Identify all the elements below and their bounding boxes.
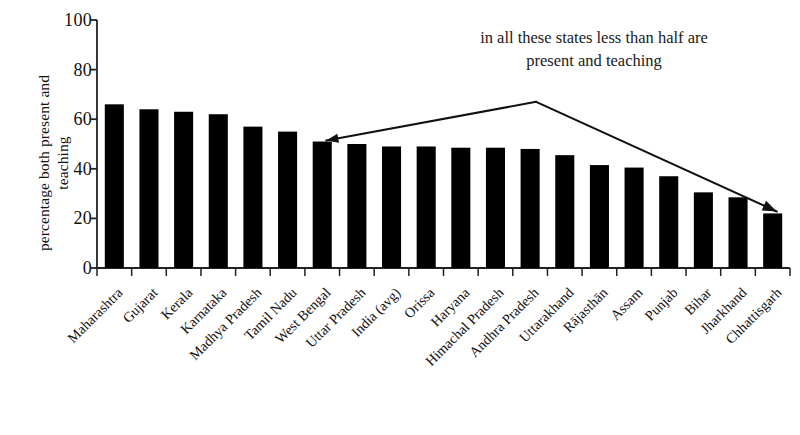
- bar-chart: percentage both present and teaching 100…: [0, 0, 800, 435]
- x-axis-tick-labels: MaharashtraGujaratKeralaKarnatakaMadhya …: [0, 0, 800, 435]
